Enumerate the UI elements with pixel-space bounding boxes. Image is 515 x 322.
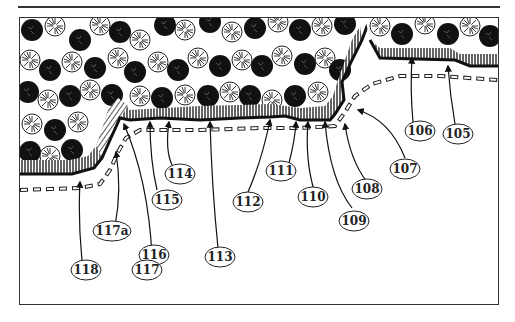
leader-106 xyxy=(411,58,413,122)
callout-105: 105 xyxy=(443,124,473,144)
leader-112 xyxy=(248,120,270,192)
callout-113: 113 xyxy=(205,247,235,267)
leader-108 xyxy=(345,124,367,182)
callouts: 105 106 107 108 109 110 111 112 113 114 … xyxy=(71,121,473,280)
callout-117-label: 117 xyxy=(134,263,159,277)
callout-110-label: 110 xyxy=(300,190,325,204)
callout-117a: 117a xyxy=(93,221,131,241)
callout-112: 112 xyxy=(233,192,263,212)
leader-117a xyxy=(115,152,119,226)
woodland-canopy xyxy=(17,11,501,174)
leader-114 xyxy=(168,122,172,165)
leader-109 xyxy=(325,122,352,208)
callout-115: 115 xyxy=(152,190,182,210)
callout-111: 111 xyxy=(266,161,296,181)
callout-118: 118 xyxy=(71,260,101,280)
callout-118-label: 118 xyxy=(73,263,98,277)
leader-105 xyxy=(448,66,455,124)
callout-117: 117 xyxy=(132,260,162,280)
callout-114: 114 xyxy=(165,164,195,184)
leader-107 xyxy=(358,110,405,158)
callout-106: 106 xyxy=(405,121,435,141)
callout-111-label: 111 xyxy=(268,164,293,178)
leader-115 xyxy=(150,122,157,190)
callout-109-label: 109 xyxy=(341,214,366,228)
leader-110 xyxy=(307,122,314,190)
callout-108: 108 xyxy=(352,179,382,199)
callout-112-label: 112 xyxy=(235,195,260,209)
edge-planting-diagram: 105 106 107 108 109 110 111 112 113 114 … xyxy=(0,0,515,322)
callout-106-label: 106 xyxy=(407,124,432,138)
callout-113-label: 113 xyxy=(207,250,232,264)
callout-117a-label: 117a xyxy=(96,224,129,238)
callout-110: 110 xyxy=(298,187,328,207)
callout-107: 107 xyxy=(390,159,420,179)
leader-113 xyxy=(210,122,218,248)
callout-109: 109 xyxy=(339,211,369,231)
callout-107-label: 107 xyxy=(392,162,417,176)
callout-108-label: 108 xyxy=(354,182,379,196)
callout-105-label: 105 xyxy=(445,127,470,141)
callout-114-label: 114 xyxy=(167,167,192,181)
leader-118 xyxy=(79,182,82,260)
callout-115-label: 115 xyxy=(154,193,179,207)
